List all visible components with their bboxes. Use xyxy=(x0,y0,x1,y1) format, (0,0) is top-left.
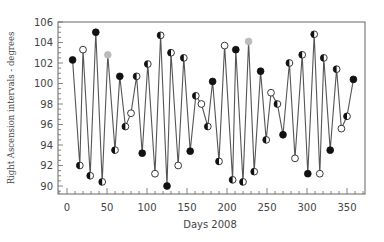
data-point-half xyxy=(204,123,211,130)
x-tick-label: 300 xyxy=(297,202,316,213)
plot-border xyxy=(58,22,365,194)
y-tick-label: 94 xyxy=(40,140,53,151)
data-point-filled xyxy=(116,73,123,80)
data-point-half xyxy=(216,158,223,165)
data-point-half xyxy=(168,49,175,56)
data-point-half xyxy=(263,136,270,143)
data-line xyxy=(73,32,354,186)
data-point-half xyxy=(286,60,293,67)
x-tick-label: 100 xyxy=(137,202,156,213)
x-tick-label: 0 xyxy=(64,202,70,213)
filled-marker xyxy=(139,150,146,157)
filled-marker xyxy=(69,57,76,64)
data-point-half xyxy=(274,101,281,108)
data-point-filled xyxy=(139,150,146,157)
open-marker xyxy=(152,170,159,177)
data-point-half xyxy=(320,54,327,61)
open-marker xyxy=(128,110,135,117)
open-marker xyxy=(175,162,182,169)
x-tick-label: 50 xyxy=(101,202,114,213)
filled-marker xyxy=(327,147,334,154)
filled-marker xyxy=(350,76,357,83)
data-point-open xyxy=(221,42,228,49)
filled-marker xyxy=(280,131,287,138)
y-tick-label: 96 xyxy=(40,119,53,130)
filled-marker xyxy=(232,46,239,53)
filled-marker xyxy=(257,68,264,75)
filled-marker xyxy=(304,170,311,177)
data-point-half xyxy=(76,162,83,169)
y-tick-label: 106 xyxy=(34,17,53,28)
data-point-half xyxy=(122,123,129,130)
data-point-open xyxy=(152,170,159,177)
data-point-half xyxy=(333,66,340,73)
data-point-filled xyxy=(350,76,357,83)
data-point-half xyxy=(240,179,247,186)
open-marker xyxy=(198,101,205,108)
x-tick-label: 200 xyxy=(217,202,236,213)
data-point-grey xyxy=(104,51,111,58)
grey-marker xyxy=(104,51,111,58)
data-point-open xyxy=(316,170,323,177)
data-point-half xyxy=(251,168,258,175)
data-point-half xyxy=(87,172,94,179)
filled-marker xyxy=(187,148,194,155)
data-point-half xyxy=(344,113,351,120)
data-point-open xyxy=(198,101,205,108)
open-marker xyxy=(268,89,275,96)
data-point-filled xyxy=(187,148,194,155)
y-axis-title: Right Ascension intervals - degrees xyxy=(6,32,16,185)
y-tick-label: 98 xyxy=(40,99,53,110)
data-point-open xyxy=(128,110,135,117)
data-point-half xyxy=(157,32,164,39)
series-line xyxy=(73,32,354,186)
data-point-filled xyxy=(164,183,171,190)
data-point-filled xyxy=(327,147,334,154)
data-point-filled xyxy=(304,170,311,177)
data-point-half xyxy=(192,92,199,99)
open-marker xyxy=(80,46,87,53)
filled-marker xyxy=(116,73,123,80)
x-tick-label: 250 xyxy=(257,202,276,213)
y-tick-label: 102 xyxy=(34,58,53,69)
data-point-open xyxy=(292,155,299,162)
data-point-filled xyxy=(232,46,239,53)
data-point-half xyxy=(144,61,151,68)
filled-marker xyxy=(209,78,216,85)
data-point-half xyxy=(112,147,119,154)
data-point-filled xyxy=(257,68,264,75)
data-point-half xyxy=(99,179,106,186)
data-point-half xyxy=(133,73,140,80)
data-point-open xyxy=(268,89,275,96)
data-point-filled xyxy=(69,57,76,64)
data-point-open xyxy=(338,125,345,132)
data-point-half xyxy=(229,176,236,183)
y-tick-label: 100 xyxy=(34,78,53,89)
filled-marker xyxy=(164,183,171,190)
y-tick-label: 104 xyxy=(34,37,53,48)
open-marker xyxy=(292,155,299,162)
data-point-half xyxy=(299,51,306,58)
y-tick-label: 92 xyxy=(40,160,53,171)
x-tick-label: 150 xyxy=(177,202,196,213)
x-tick-label: 350 xyxy=(337,202,356,213)
filled-marker xyxy=(92,29,99,36)
data-point-filled xyxy=(280,131,287,138)
open-marker xyxy=(316,170,323,177)
open-marker xyxy=(221,42,228,49)
data-point-half xyxy=(311,31,318,38)
open-marker xyxy=(338,125,345,132)
data-point-open xyxy=(175,162,182,169)
data-point-filled xyxy=(209,78,216,85)
data-point-grey xyxy=(245,38,252,45)
data-point-half xyxy=(180,54,187,61)
chart: 9092949698100102104106050100150200250300… xyxy=(0,0,384,242)
plot-frame xyxy=(58,22,365,194)
data-point-filled xyxy=(92,29,99,36)
y-tick-label: 90 xyxy=(40,181,53,192)
data-point-open xyxy=(80,46,87,53)
grey-marker xyxy=(245,38,252,45)
x-axis-title: Days 2008 xyxy=(183,219,237,230)
